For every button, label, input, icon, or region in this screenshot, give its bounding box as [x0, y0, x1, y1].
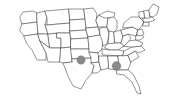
- state-montana: [45, 9, 70, 25]
- state-washington: [20, 11, 37, 24]
- us-map-svg: [0, 0, 174, 103]
- state-north-dakota: [69, 9, 85, 20]
- state-oregon: [20, 22, 38, 36]
- state-south-dakota: [70, 19, 86, 31]
- alabama-marker[interactable]: [112, 62, 121, 71]
- state-maine: [149, 4, 159, 17]
- state-tennessee: [102, 49, 124, 56]
- state-missouri: [88, 35, 103, 53]
- state-wyoming: [45, 23, 70, 34]
- state-kansas: [71, 38, 89, 49]
- state-michigan: [107, 16, 117, 33]
- state-minnesota: [84, 8, 98, 28]
- oklahoma-marker[interactable]: [77, 56, 85, 64]
- state-new-mexico: [60, 47, 72, 63]
- state-kentucky: [105, 43, 124, 50]
- state-mississippi: [99, 56, 109, 70]
- us-map-figure: [0, 0, 174, 103]
- state-nebraska: [70, 30, 88, 39]
- state-new-jersey: [137, 29, 144, 36]
- state-florida: [117, 70, 141, 94]
- state-connecticut: [143, 22, 149, 26]
